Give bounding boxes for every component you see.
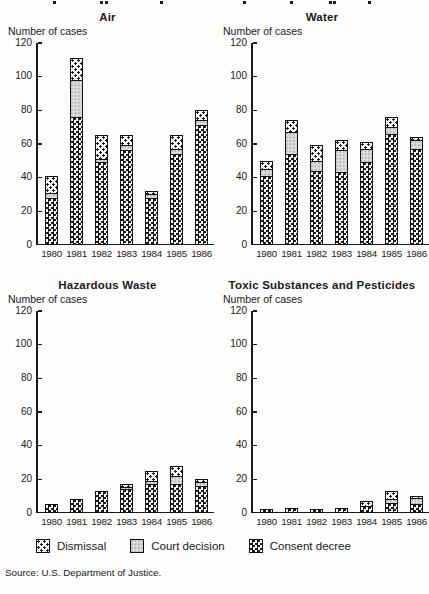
y-tick [38, 411, 43, 413]
x-tick-label-1981: 1981 [278, 516, 305, 527]
bar-segment-consent-1984 [361, 163, 372, 244]
stacked-bar-1985 [170, 135, 183, 245]
x-tick-label-1985: 1985 [378, 516, 405, 527]
y-tick [253, 310, 258, 312]
y-tick [38, 445, 43, 447]
y-tick-label: 100 [2, 70, 32, 82]
y-tick [253, 445, 258, 447]
y-tick-label: 80 [217, 372, 247, 384]
y-tick [253, 76, 258, 78]
y-tick [38, 211, 43, 213]
y-tick-label: 60 [2, 138, 32, 150]
bar-segment-dismissal-1980 [261, 162, 272, 170]
x-axis-tick-labels: 1980198119821983198419851986 [36, 516, 221, 529]
x-tick-label-1980: 1980 [253, 248, 280, 259]
legend: DismissalCourt decisionConsent decree [36, 539, 429, 553]
bar-segment-court-1981 [71, 81, 82, 118]
x-tick-label-1983: 1983 [328, 248, 355, 259]
y-tick-label: 40 [2, 439, 32, 451]
bar-segment-dismissal-1985 [386, 492, 397, 500]
stacked-bar-1982 [310, 145, 323, 245]
consent-pattern-swatch [249, 539, 263, 553]
y-tick-label: 120 [2, 305, 32, 317]
x-tick-label-1981: 1981 [278, 248, 305, 259]
bar-segment-dismissal-1982 [96, 136, 107, 160]
y-tick-label: 100 [2, 338, 32, 350]
stacked-bar-1982 [95, 491, 108, 513]
x-tick-label-1986: 1986 [188, 516, 215, 527]
bar-segment-consent-1982 [311, 172, 322, 244]
stacked-bar-1980 [45, 504, 58, 513]
legend-item-consent: Consent decree [249, 539, 351, 553]
bar-segment-consent-1986 [411, 505, 422, 512]
stacked-bar-1984 [360, 142, 373, 245]
x-tick-label-1982: 1982 [88, 516, 115, 527]
x-tick-label-1983: 1983 [113, 516, 140, 527]
y-tick [38, 42, 43, 44]
bar-segment-consent-1985 [171, 485, 182, 512]
bar-segment-consent-1980 [46, 199, 57, 244]
stacked-bar-1981 [70, 58, 83, 245]
y-tick-label: 40 [217, 171, 247, 183]
stacked-bar-1983 [120, 484, 133, 513]
chart-title-hazardous-waste: Hazardous Waste [0, 279, 215, 291]
bar-segment-consent-1984 [361, 507, 372, 512]
x-tick-label-1985: 1985 [163, 516, 190, 527]
source-note: Source: U.S. Department of Justice. [5, 567, 429, 578]
x-tick-label-1981: 1981 [63, 516, 90, 527]
y-tick-label: 60 [217, 138, 247, 150]
plot-area-hazardous-waste: 020406080100120 [36, 311, 214, 513]
stacked-bar-1980 [260, 161, 273, 245]
y-tick-label: 20 [2, 205, 32, 217]
chart-title-toxic-substances: Toxic Substances and Pesticides [215, 279, 429, 291]
stacked-bar-1981 [70, 499, 83, 513]
y-tick [38, 344, 43, 346]
bar-segment-dismissal-1985 [386, 118, 397, 128]
y-tick-label: 40 [2, 171, 32, 183]
plot-area-air: 020406080100120 [36, 43, 214, 245]
stacked-bar-1984 [145, 191, 158, 245]
x-axis-tick-labels: 1980198119821983198419851986 [251, 248, 429, 261]
bar-segment-dismissal-1983 [336, 141, 347, 151]
bar-segment-consent-1980 [261, 510, 272, 512]
x-tick-label-1986: 1986 [403, 248, 429, 259]
y-tick-label: 0 [2, 507, 32, 519]
bar-segment-dismissal-1983 [121, 136, 132, 146]
bar-segment-court-1986 [411, 141, 422, 149]
legend-label-dismissal: Dismissal [57, 540, 106, 552]
y-tick [253, 211, 258, 213]
bar-segment-court-1981 [286, 133, 297, 155]
stacked-bar-1983 [120, 135, 133, 245]
bar-segment-dismissal-1985 [171, 467, 182, 477]
chart-panel-water: Water Number of cases 020406080100120 19… [215, 5, 429, 261]
legend-label-consent: Consent decree [270, 540, 351, 552]
bar-segment-consent-1982 [311, 510, 322, 512]
bar-segment-consent-1980 [46, 505, 57, 512]
stacked-bar-1985 [170, 466, 183, 513]
y-tick-label: 0 [217, 507, 247, 519]
plot-area-water: 020406080100120 [251, 43, 429, 245]
bar-segment-dismissal-1984 [146, 472, 157, 482]
y-axis-label: Number of cases [223, 25, 429, 37]
y-tick [253, 110, 258, 112]
x-tick-label-1986: 1986 [403, 516, 429, 527]
bar-segment-court-1985 [171, 477, 182, 485]
x-tick-label-1983: 1983 [113, 248, 140, 259]
bar-segment-court-1986 [411, 499, 422, 506]
x-tick-label-1982: 1982 [303, 516, 330, 527]
y-tick-label: 60 [2, 406, 32, 418]
y-tick [253, 344, 258, 346]
legend-item-dismissal: Dismissal [36, 539, 106, 553]
x-tick-label-1985: 1985 [378, 248, 405, 259]
bar-segment-consent-1985 [386, 135, 397, 244]
bar-segment-consent-1984 [146, 485, 157, 512]
bar-segment-dismissal-1982 [311, 146, 322, 161]
plot-area-toxic-substances: 020406080100120 [251, 311, 429, 513]
y-tick [253, 42, 258, 44]
stacked-bar-1983 [335, 140, 348, 245]
stacked-bar-1984 [145, 471, 158, 513]
y-tick [253, 479, 258, 481]
y-tick [38, 479, 43, 481]
bar-segment-consent-1983 [121, 490, 132, 512]
x-tick-label-1984: 1984 [353, 248, 380, 259]
